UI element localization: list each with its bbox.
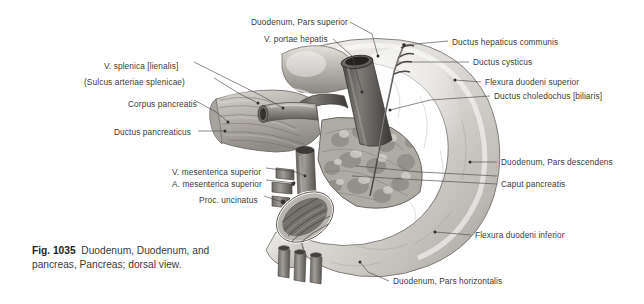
label-ductus-pancreaticus: Ductus pancreaticus bbox=[114, 128, 191, 136]
label-sulcus-arteriae-splenicae: (Sulcus arteriae splenicae) bbox=[84, 78, 185, 86]
label-v-splenica: V. splenica [lienalis] bbox=[104, 62, 178, 70]
label-ductus-hepaticus-communis: Ductus hepaticus communis bbox=[452, 38, 558, 46]
label-duodenum-pars-superior: Duodenum, Pars superior bbox=[251, 18, 348, 26]
label-duodenum-pars-horizontalis: Duodenum, Pars horizontalis bbox=[393, 277, 502, 285]
figure-number: Fig. 1035 bbox=[32, 245, 76, 256]
label-proc-uncinatus: Proc. uncinatus bbox=[199, 196, 258, 204]
label-duodenum-pars-descendens: Duodenum, Pars descendens bbox=[501, 158, 613, 166]
label-flexura-duodeni-superior: Flexura duodeni superior bbox=[485, 78, 579, 86]
label-corpus-pancreatis: Corpus pancreatis bbox=[128, 100, 197, 108]
label-caput-pancreatis: Caput pancreatis bbox=[501, 180, 565, 188]
figure-caption: Fig. 1035 Duodenum, Duodenum, and pancre… bbox=[32, 244, 237, 272]
label-v-mesenterica-superior: V. mesenterica superior bbox=[172, 168, 261, 176]
label-v-portae-hepatis: V. portae hepatis bbox=[264, 35, 328, 43]
figure-page: Duodenum, Pars superior V. portae hepati… bbox=[0, 0, 644, 304]
label-a-mesenterica-superior: A. mesenterica superior bbox=[172, 180, 262, 188]
label-ductus-choledochus: Ductus choledochus [biliaris] bbox=[494, 92, 602, 100]
label-ductus-cysticus: Ductus cysticus bbox=[473, 58, 532, 66]
label-flexura-duodeni-inferior: Flexura duodeni inferior bbox=[475, 231, 565, 239]
